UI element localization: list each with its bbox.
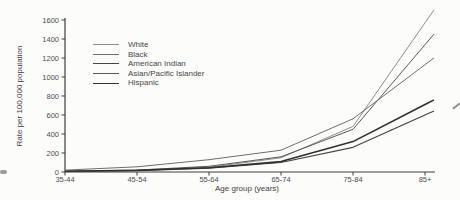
x-tick-label: 85+ [419, 175, 432, 184]
y-tick-label: 1000 [42, 73, 59, 82]
y-tick-label: 400 [46, 130, 59, 139]
y-tick-label: 1400 [42, 35, 59, 44]
x-tick-label: 75-84 [343, 175, 362, 184]
y-tick-label: 800 [46, 92, 59, 101]
legend-item-hispanic: Hispanic [93, 78, 204, 88]
legend-label: Black [128, 50, 148, 60]
legend-line-sample [93, 54, 119, 55]
legend-label: Asian/Pacific Islander [128, 69, 204, 79]
legend-label: White [128, 40, 148, 50]
legend-item-american-indian: American Indian [93, 59, 204, 69]
x-tick-label: 45-54 [127, 175, 146, 184]
y-tick-label: 1200 [42, 54, 59, 63]
x-axis-title: Age group (years) [215, 184, 279, 193]
legend-line-sample [93, 63, 119, 64]
y-axis-title: Rate per 100,000 population [15, 46, 24, 147]
series-line-white [65, 10, 434, 172]
stroke-rate-by-age-race-chart: 0200400600800100012001400160035-4445-545… [0, 0, 460, 200]
plot-area: 0200400600800100012001400160035-4445-545… [0, 0, 460, 200]
legend-item-black: Black [93, 50, 204, 60]
legend-line-sample [93, 83, 119, 84]
legend-item-white: White [93, 40, 204, 50]
x-tick-label: 65-74 [271, 175, 290, 184]
y-tick-label: 200 [46, 149, 59, 158]
legend-line-sample [93, 73, 119, 74]
series-lines [65, 10, 434, 172]
legend-label: Hispanic [128, 78, 159, 88]
x-tick-label: 35-44 [55, 175, 74, 184]
y-tick-label: 1600 [42, 16, 59, 25]
legend-line-sample [93, 44, 119, 45]
y-tick-label: 600 [46, 111, 59, 120]
legend-item-asian-pacific-islander: Asian/Pacific Islander [93, 69, 204, 79]
scan-artifact-left-icon [0, 170, 7, 174]
x-tick-label: 55-64 [199, 175, 218, 184]
legend-label: American Indian [128, 59, 186, 69]
legend: WhiteBlackAmerican IndianAsian/Pacific I… [93, 40, 204, 88]
